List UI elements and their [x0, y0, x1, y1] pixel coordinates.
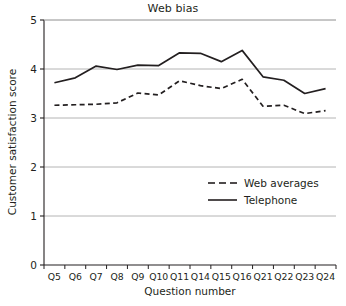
series-group [54, 50, 325, 113]
y-tick-label-1: 1 [30, 210, 37, 222]
y-tick-label-5: 5 [30, 14, 37, 26]
chart-legend: Web averages Telephone [208, 177, 319, 206]
legend-label-telephone: Telephone [243, 194, 297, 206]
x-tick-label-Q14: Q14 [191, 271, 210, 282]
x-tick-label-Q11: Q11 [170, 271, 189, 282]
x-tick-label-Q21: Q21 [253, 271, 272, 282]
x-tick-label-Q7: Q7 [90, 271, 103, 282]
x-tick-label-Q16: Q16 [233, 271, 252, 282]
x-tick-label-Q22: Q22 [274, 271, 293, 282]
y-tick-label-4: 4 [30, 63, 37, 75]
y-axis-ticks: 012345 [30, 14, 44, 271]
y-axis-title: Customer satisfaction score [6, 69, 18, 215]
line-chart: 012345 Q5Q6Q7Q8Q9Q10Q11Q14Q15Q16Q21Q22Q2… [0, 0, 346, 306]
y-tick-label-0: 0 [30, 259, 37, 271]
x-axis-ticks: Q5Q6Q7Q8Q9Q10Q11Q14Q15Q16Q21Q22Q23Q24 [44, 265, 336, 282]
series-line-web-averages [54, 79, 325, 113]
x-axis-title: Question number [144, 285, 236, 297]
x-tick-label-Q8: Q8 [110, 271, 123, 282]
x-tick-label-Q10: Q10 [149, 271, 168, 282]
x-tick-label-Q23: Q23 [295, 271, 314, 282]
series-line-telephone [54, 50, 325, 93]
x-tick-label-Q9: Q9 [131, 271, 144, 282]
y-tick-label-3: 3 [30, 112, 37, 124]
y-tick-label-2: 2 [30, 161, 37, 173]
x-tick-label-Q5: Q5 [48, 271, 61, 282]
x-tick-label-Q6: Q6 [69, 271, 82, 282]
chart-figure: Web bias 012345 Q5Q6Q7Q8Q9Q10Q11Q14Q15Q1… [0, 0, 346, 306]
legend-label-web-averages: Web averages [244, 177, 319, 189]
x-tick-label-Q24: Q24 [316, 271, 335, 282]
plot-border [44, 20, 336, 265]
x-tick-label-Q15: Q15 [212, 271, 231, 282]
